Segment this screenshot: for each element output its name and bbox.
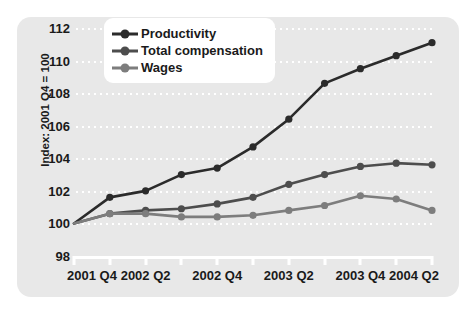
data-point-marker bbox=[285, 207, 292, 214]
data-point-marker bbox=[321, 171, 328, 178]
y-axis-tick-label: 100 bbox=[48, 216, 70, 231]
data-point-marker bbox=[178, 171, 185, 178]
data-point-marker bbox=[393, 195, 400, 202]
legend-label: Productivity bbox=[141, 27, 216, 40]
data-point-marker bbox=[285, 116, 292, 123]
x-axis-tick-label: 2003 Q4 bbox=[335, 268, 385, 283]
x-axis-tick bbox=[252, 256, 255, 265]
data-point-marker bbox=[357, 192, 364, 199]
data-point-marker bbox=[214, 213, 221, 220]
x-axis-tick bbox=[431, 256, 434, 265]
data-point-marker bbox=[214, 200, 221, 207]
data-point-marker bbox=[106, 210, 113, 217]
x-axis-tick-label: 2004 Q2 bbox=[389, 268, 439, 283]
legend-dot bbox=[121, 63, 130, 72]
chart-legend: ProductivityTotal compensationWages bbox=[104, 18, 275, 83]
data-point-marker bbox=[357, 65, 364, 72]
data-point-marker bbox=[428, 161, 435, 168]
x-axis-tick-label: 2001 Q4 bbox=[67, 268, 117, 283]
legend-dot bbox=[121, 29, 130, 38]
x-axis-tick bbox=[395, 256, 398, 265]
x-axis-tick bbox=[359, 256, 362, 265]
y-axis-tick-label: 112 bbox=[49, 21, 70, 36]
data-point-marker bbox=[321, 202, 328, 209]
x-axis-tick bbox=[144, 256, 147, 265]
data-point-marker bbox=[321, 80, 328, 87]
legend-dot bbox=[121, 46, 130, 55]
y-axis-tick-label: 108 bbox=[48, 86, 70, 101]
x-axis-tick-label: 2002 Q4 bbox=[192, 268, 242, 283]
x-axis-tick bbox=[108, 256, 111, 265]
legend-marker-icon bbox=[112, 28, 138, 40]
data-point-marker bbox=[393, 160, 400, 167]
x-axis-tick bbox=[323, 256, 326, 265]
legend-marker-icon bbox=[112, 62, 138, 74]
data-point-marker bbox=[393, 52, 400, 59]
data-point-marker bbox=[357, 163, 364, 170]
y-axis-tick-labels: 98100102104106108110112 bbox=[30, 28, 70, 256]
data-point-marker bbox=[249, 143, 256, 150]
y-axis-tick-label: 106 bbox=[48, 118, 70, 133]
data-point-marker bbox=[142, 210, 149, 217]
data-point-marker bbox=[178, 213, 185, 220]
y-axis-tick-label: 98 bbox=[56, 249, 70, 264]
legend-label: Total compensation bbox=[141, 44, 263, 57]
legend-marker-icon bbox=[112, 45, 138, 57]
legend-label: Wages bbox=[141, 61, 182, 74]
x-axis-tick bbox=[73, 256, 76, 265]
data-point-marker bbox=[428, 39, 435, 46]
data-point-marker bbox=[106, 194, 113, 201]
y-axis-tick-label: 104 bbox=[48, 151, 70, 166]
x-axis-tick-label: 2003 Q2 bbox=[264, 268, 314, 283]
data-point-marker bbox=[249, 194, 256, 201]
data-point-marker bbox=[214, 164, 221, 171]
data-point-marker bbox=[285, 181, 292, 188]
x-axis bbox=[74, 256, 432, 265]
legend-item-wages[interactable]: Wages bbox=[112, 59, 263, 76]
y-axis-tick-label: 102 bbox=[48, 183, 70, 198]
chart-figure: Index: 2001 Q4 = 100 9810010210410610811… bbox=[0, 0, 476, 314]
x-axis-tick bbox=[287, 256, 290, 265]
legend-item-total-compensation[interactable]: Total compensation bbox=[112, 42, 263, 59]
y-axis-tick-label: 110 bbox=[49, 53, 70, 68]
data-point-marker bbox=[142, 187, 149, 194]
legend-item-productivity[interactable]: Productivity bbox=[112, 25, 263, 42]
x-axis-tick-labels: 2001 Q42002 Q22002 Q42003 Q22003 Q42004 … bbox=[0, 268, 476, 290]
data-point-marker bbox=[428, 207, 435, 214]
x-axis-tick-label: 2002 Q2 bbox=[121, 268, 171, 283]
data-point-marker bbox=[178, 205, 185, 212]
x-axis-tick bbox=[216, 256, 219, 265]
x-axis-tick bbox=[180, 256, 183, 265]
data-point-marker bbox=[249, 212, 256, 219]
